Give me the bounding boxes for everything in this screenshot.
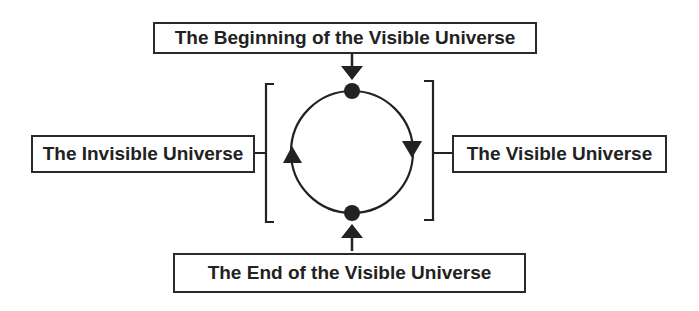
end-visible-universe-box: The End of the Visible Universe bbox=[173, 253, 526, 293]
beginning-label: The Beginning of the Visible Universe bbox=[175, 27, 516, 49]
cycle-arrow-up-icon bbox=[283, 146, 302, 163]
end-label: The End of the Visible Universe bbox=[208, 262, 492, 284]
bottom-dot bbox=[344, 205, 360, 221]
beginning-visible-universe-box: The Beginning of the Visible Universe bbox=[153, 22, 537, 54]
cycle-circle bbox=[291, 91, 413, 213]
arrow-up-icon bbox=[341, 224, 363, 251]
visible-label: The Visible Universe bbox=[467, 143, 653, 165]
right-bracket bbox=[424, 81, 433, 220]
invisible-label: The Invisible Universe bbox=[43, 143, 244, 165]
invisible-universe-box: The Invisible Universe bbox=[31, 135, 255, 173]
arrow-down-icon bbox=[341, 54, 363, 80]
left-bracket bbox=[266, 84, 274, 222]
cycle-arrow-down-icon bbox=[402, 141, 422, 158]
top-dot bbox=[344, 83, 360, 99]
visible-universe-box: The Visible Universe bbox=[452, 135, 667, 173]
